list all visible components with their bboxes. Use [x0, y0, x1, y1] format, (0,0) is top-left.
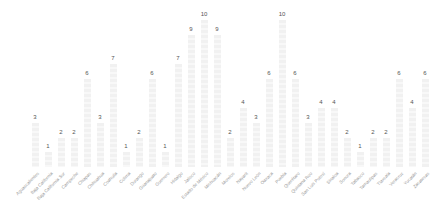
bar — [97, 123, 104, 167]
bar — [32, 123, 39, 167]
bar — [188, 35, 195, 167]
bar — [396, 79, 403, 167]
value-label: 1 — [353, 143, 367, 149]
bar — [123, 152, 130, 167]
value-label: 2 — [54, 129, 68, 135]
value-label: 2 — [67, 129, 81, 135]
bar — [84, 79, 91, 167]
bar — [292, 79, 299, 167]
bar — [318, 108, 325, 167]
bar-chart: 3Aguascalientes1Baja California2Baja Cal… — [0, 0, 447, 215]
bar — [240, 108, 247, 167]
value-label: 2 — [340, 129, 354, 135]
bar — [305, 123, 312, 167]
value-label: 2 — [379, 129, 393, 135]
value-label: 10 — [275, 11, 289, 17]
bar — [110, 64, 117, 167]
value-label: 4 — [314, 99, 328, 105]
value-label: 4 — [405, 99, 419, 105]
category-label: Hidalgo — [169, 171, 183, 185]
category-label: Morelos — [221, 171, 236, 186]
bar — [253, 123, 260, 167]
bar — [45, 152, 52, 167]
bar — [383, 138, 390, 167]
value-label: 9 — [210, 26, 224, 32]
value-label: 1 — [41, 143, 55, 149]
value-label: 6 — [145, 70, 159, 76]
value-label: 4 — [236, 99, 250, 105]
value-label: 6 — [262, 70, 276, 76]
bar — [175, 64, 182, 167]
bar — [331, 108, 338, 167]
bar — [357, 152, 364, 167]
bar — [162, 152, 169, 167]
value-label: 2 — [132, 129, 146, 135]
bar — [201, 20, 208, 167]
value-label: 6 — [392, 70, 406, 76]
value-label: 1 — [119, 143, 133, 149]
value-label: 3 — [28, 114, 42, 120]
value-label: 7 — [106, 55, 120, 61]
bar — [422, 79, 429, 167]
value-label: 2 — [366, 129, 380, 135]
bar — [266, 79, 273, 167]
bar — [279, 20, 286, 167]
value-label: 3 — [301, 114, 315, 120]
value-label: 1 — [158, 143, 172, 149]
bar — [344, 138, 351, 167]
value-label: 10 — [197, 11, 211, 17]
value-label: 2 — [223, 129, 237, 135]
bar — [214, 35, 221, 167]
value-label: 3 — [93, 114, 107, 120]
value-label: 6 — [418, 70, 432, 76]
value-label: 9 — [184, 26, 198, 32]
value-label: 6 — [288, 70, 302, 76]
bar — [370, 138, 377, 167]
bar — [409, 108, 416, 167]
bar — [149, 79, 156, 167]
value-label: 7 — [171, 55, 185, 61]
category-label: Sinaloa — [325, 171, 339, 185]
bar — [136, 138, 143, 167]
value-label: 4 — [327, 99, 341, 105]
value-label: 3 — [249, 114, 263, 120]
bar — [58, 138, 65, 167]
value-label: 6 — [80, 70, 94, 76]
bar — [71, 138, 78, 167]
category-label: Oaxaca — [260, 171, 275, 186]
bar — [227, 138, 234, 167]
